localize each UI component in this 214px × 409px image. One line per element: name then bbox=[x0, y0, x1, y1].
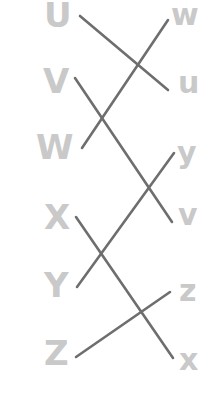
right-label-x: x bbox=[179, 345, 198, 375]
connection-line-Y-y bbox=[77, 153, 174, 287]
right-label-z: z bbox=[179, 276, 196, 306]
left-label-W: W bbox=[36, 130, 74, 164]
right-label-y: y bbox=[177, 138, 197, 168]
left-label-V: V bbox=[43, 64, 69, 98]
left-label-U: U bbox=[44, 0, 72, 32]
right-label-u: u bbox=[178, 68, 199, 98]
connection-line-V-v bbox=[75, 78, 172, 222]
left-label-Y: Y bbox=[44, 268, 69, 302]
left-label-Z: Z bbox=[44, 336, 69, 370]
connection-line-U-u bbox=[80, 16, 168, 90]
right-label-v: v bbox=[178, 200, 198, 230]
connection-line-W-w bbox=[82, 20, 168, 148]
connection-line-X-x bbox=[76, 217, 173, 358]
left-label-X: X bbox=[44, 200, 70, 234]
right-label-w: w bbox=[171, 0, 199, 30]
connection-line-Z-z bbox=[76, 292, 170, 357]
